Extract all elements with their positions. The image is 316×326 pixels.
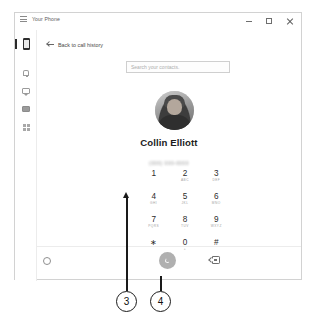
dialpad-key-9[interactable]: 9 WXYZ	[201, 211, 232, 234]
apps-grid-icon	[23, 124, 30, 131]
backspace-button[interactable]	[209, 256, 220, 264]
callout-4: 4	[150, 291, 171, 312]
phone-icon	[23, 38, 30, 50]
key-letters: TUV	[181, 225, 189, 229]
search-placeholder: Search your contacts.	[127, 64, 179, 70]
dialpad-key-2[interactable]: 2 ABC	[169, 165, 200, 188]
close-button[interactable]	[279, 14, 299, 28]
dialpad-key-5[interactable]: 5 JKL	[169, 188, 200, 211]
maximize-icon	[266, 18, 272, 24]
back-to-call-history-link[interactable]: Back to call history	[47, 41, 103, 48]
key-letters: DEF	[212, 179, 220, 183]
key-letters: MNO	[212, 202, 221, 206]
your-phone-window: Your Phone	[14, 12, 302, 280]
search-contacts-input[interactable]: Search your contacts.	[126, 61, 230, 73]
key-letters: GHI	[150, 202, 157, 206]
key-digit: 7	[151, 216, 156, 224]
dialpad-key-3[interactable]: 3 DEF	[201, 165, 232, 188]
sidebar-item-phone[interactable]	[18, 36, 34, 52]
close-icon	[286, 18, 293, 25]
bottom-action-bar	[37, 246, 301, 279]
bell-icon	[23, 70, 29, 76]
key-digit: 4	[151, 193, 156, 201]
back-link-label: Back to call history	[58, 42, 103, 48]
key-digit: 1	[151, 170, 156, 178]
dialpad-key-8[interactable]: 8 TUV	[169, 211, 200, 234]
screenshot-root: Your Phone	[0, 0, 316, 326]
key-letters: WXYZ	[211, 225, 222, 229]
sidebar-item-messages[interactable]	[18, 83, 34, 99]
gear-icon	[43, 257, 51, 265]
message-icon	[22, 88, 30, 94]
sidebar-item-notifications[interactable]	[18, 65, 34, 81]
minimize-button[interactable]	[239, 14, 259, 28]
callout-4-leader-line	[160, 276, 162, 291]
window-controls	[239, 14, 299, 28]
dialpad-key-1[interactable]: 1	[138, 165, 169, 188]
back-arrow-icon	[47, 41, 54, 48]
key-letters: JKL	[181, 202, 188, 206]
callout-3: 3	[116, 291, 137, 312]
window-title: Your Phone	[32, 16, 60, 22]
main-content: Back to call history Search your contact…	[37, 30, 301, 279]
callout-3-leader-line	[126, 196, 128, 291]
dialpad-key-7[interactable]: 7 PQRS	[138, 211, 169, 234]
title-bar: Your Phone	[15, 13, 301, 30]
dialpad-key-6[interactable]: 6 MNO	[201, 188, 232, 211]
dialpad-key-4[interactable]: 4 GHI	[138, 188, 169, 211]
key-letters: PQRS	[148, 225, 159, 229]
key-digit: 8	[183, 216, 188, 224]
sidebar-item-apps[interactable]	[18, 119, 34, 135]
minimize-icon	[246, 21, 252, 22]
hamburger-icon[interactable]	[20, 16, 27, 22]
call-button[interactable]	[159, 252, 176, 269]
key-digit: 9	[214, 216, 219, 224]
contact-avatar	[155, 91, 194, 130]
contact-name: Collin Elliott	[37, 137, 301, 148]
settings-button[interactable]	[40, 254, 54, 268]
phone-handset-icon	[164, 257, 171, 264]
key-digit: 6	[214, 193, 219, 201]
key-digit: 3	[214, 170, 219, 178]
avatar-face	[167, 99, 182, 115]
key-letters: ABC	[181, 179, 189, 183]
dialpad: 1 2 ABC 3 DEF 4 GHI 5 JKL	[138, 165, 232, 257]
photo-icon	[22, 106, 30, 113]
maximize-button[interactable]	[259, 14, 279, 28]
key-digit: 2	[183, 170, 188, 178]
sidebar-item-photos[interactable]	[18, 101, 34, 117]
key-digit: 5	[183, 193, 188, 201]
title-bar-left: Your Phone	[20, 16, 60, 22]
sidebar	[15, 30, 37, 281]
avatar-body	[158, 115, 191, 130]
